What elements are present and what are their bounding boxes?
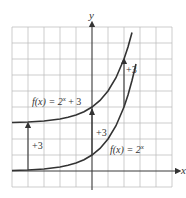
lower-exponent: x (140, 143, 145, 151)
shift-label-right: +3 (126, 64, 137, 75)
upper-fn: f(x) = 2 (32, 96, 63, 108)
y-axis-label: y (88, 9, 94, 21)
upper-function-label: f(x) = 2x + 3 (32, 95, 81, 108)
curve-2-pow-x-plus-3 (12, 33, 132, 123)
shift-label-left: +3 (32, 140, 43, 151)
graph-canvas: x y +3 +3 +3 f(x) = 2x + 3 f(x) = 2x (0, 0, 186, 198)
upper-tail: + 3 (66, 96, 82, 107)
lower-fn: f(x) = 2 (110, 144, 141, 156)
x-axis-label: x (180, 164, 186, 176)
shift-label-mid: +3 (96, 127, 107, 138)
lower-function-label: f(x) = 2x (110, 143, 145, 156)
